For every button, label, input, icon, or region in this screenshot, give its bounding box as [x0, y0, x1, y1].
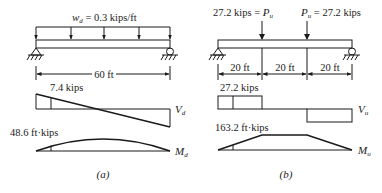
segment-label-2: 20 ft	[275, 62, 295, 73]
panel-b: 27.2 kips = Pu Pu = 27.2 kips	[209, 6, 371, 181]
moment-diagram-b: 163.2 ft·kips Mu	[215, 122, 371, 158]
shear-value-label: 7.4 kips	[50, 82, 83, 93]
roller-support-icon	[161, 48, 178, 60]
distributed-load	[36, 27, 170, 39]
pin-support-icon	[27, 48, 44, 60]
shear-diagram-label: Vd	[175, 103, 186, 117]
beam-diagrams: wd = 0.3 kips/ft	[0, 0, 382, 193]
point-load-left-label: 27.2 kips = Pu	[213, 6, 273, 20]
span-dimension: 60 ft	[36, 66, 170, 80]
distributed-load-label: wd = 0.3 kips/ft	[72, 11, 137, 25]
shear-value-label: 27.2 kips	[220, 82, 259, 93]
moment-diagram-a: 48.6 ft·kips Md	[10, 127, 188, 159]
panel-a: wd = 0.3 kips/ft	[10, 11, 188, 181]
pin-support-icon	[209, 48, 226, 60]
moment-diagram-label: Mu	[357, 144, 371, 158]
roller-support-icon	[343, 48, 360, 60]
point-load-right-label: Pu = 27.2 kips	[300, 6, 361, 20]
caption-b: (b)	[280, 168, 293, 181]
beam	[218, 40, 352, 48]
beam	[36, 40, 170, 48]
segment-label-1: 20 ft	[230, 62, 250, 73]
span-label: 60 ft	[94, 69, 114, 80]
moment-value-label: 163.2 ft·kips	[215, 122, 269, 133]
segment-dimensions: 20 ft 20 ft 20 ft	[218, 48, 352, 80]
caption-a: (a)	[97, 168, 110, 181]
shear-diagram-b: 27.2 kips Vu	[218, 82, 369, 122]
segment-label-3: 20 ft	[320, 62, 340, 73]
shear-diagram-a: 7.4 kips Vd	[36, 82, 186, 127]
moment-value-label: 48.6 ft·kips	[10, 127, 58, 138]
moment-diagram-label: Md	[174, 145, 188, 159]
shear-diagram-label: Vu	[358, 103, 369, 117]
